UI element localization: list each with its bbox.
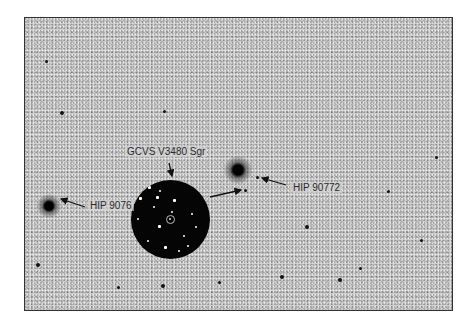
- label-hip-90761: HIP 9076: [88, 200, 134, 211]
- annotation-arrows: [0, 0, 473, 327]
- label-target-gcvs-v3480-sgr: GCVS V3480 Sgr: [125, 146, 207, 157]
- label-hip-90772: HIP 90772: [291, 182, 342, 193]
